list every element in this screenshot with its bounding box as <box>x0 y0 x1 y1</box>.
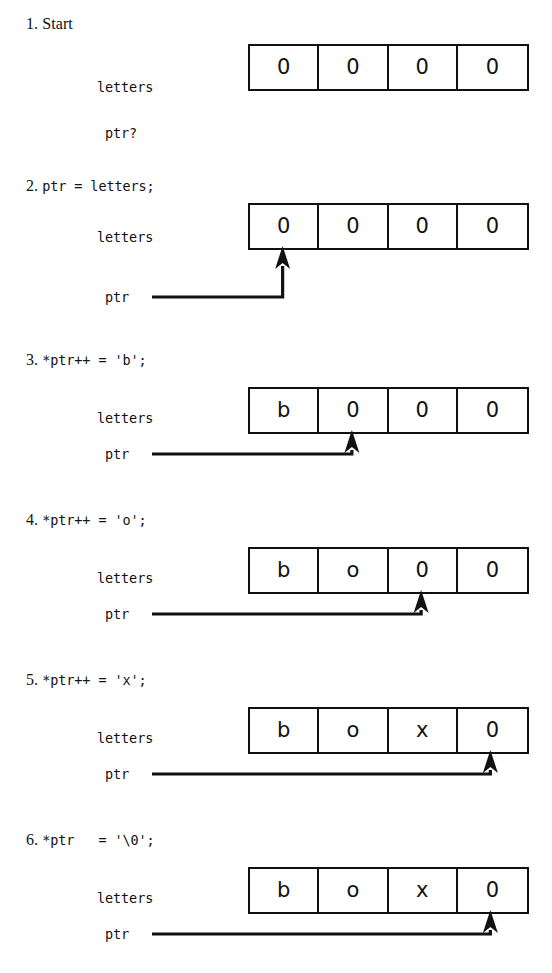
step-number: 6. <box>26 831 38 848</box>
array-label-letters: letters <box>97 79 153 95</box>
step-code-text: Start <box>42 15 73 32</box>
step-heading: 4. *ptr++ = 'o'; <box>26 510 147 530</box>
pointer-arrow <box>0 750 552 782</box>
arrow-head-icon <box>483 910 498 933</box>
step-number: 1. <box>26 15 38 32</box>
array-cells: box0 <box>248 707 529 754</box>
array-cell: 0 <box>389 549 458 592</box>
array-cell: x <box>389 709 458 752</box>
array-cell: 0 <box>319 46 388 89</box>
step-heading: 2. ptr = letters; <box>26 176 155 196</box>
arrow-head-icon <box>414 590 429 613</box>
array-cell: 0 <box>389 46 458 89</box>
pointer-arrow <box>0 430 552 462</box>
array-cell: 0 <box>458 389 527 432</box>
array-cell: 0 <box>389 205 458 248</box>
step-number: 2. <box>26 177 38 194</box>
array-cells: b000 <box>248 387 529 434</box>
step-code-text: *ptr++ = 'x'; <box>42 672 146 688</box>
arrow-head-icon <box>344 430 359 453</box>
array-cell: 0 <box>458 709 527 752</box>
array-cells: box0 <box>248 867 529 914</box>
array-label-letters: letters <box>97 730 153 746</box>
array-cell: 0 <box>458 46 527 89</box>
pointer-arrow <box>0 910 552 942</box>
step-code-text: *ptr++ = 'o'; <box>42 512 146 528</box>
array-cell: 0 <box>250 205 319 248</box>
array-cell: 0 <box>458 205 527 248</box>
array-cell: o <box>319 709 388 752</box>
array-cell: 0 <box>319 389 388 432</box>
array-cell: o <box>319 869 388 912</box>
step-number: 3. <box>26 351 38 368</box>
array-cell: 0 <box>458 549 527 592</box>
array-cell: b <box>250 869 319 912</box>
array-label-letters: letters <box>97 229 153 245</box>
pointer-arrow <box>0 246 552 305</box>
array-cell: o <box>319 549 388 592</box>
array-cell: 0 <box>389 389 458 432</box>
arrow-head-icon <box>483 750 498 773</box>
pointer-unknown-label: ptr? <box>105 125 137 141</box>
array-label-letters: letters <box>97 890 153 906</box>
array-cell: x <box>389 869 458 912</box>
arrow-head-icon <box>275 246 290 269</box>
step-code-text: *ptr++ = 'b'; <box>42 352 146 368</box>
array-cell: b <box>250 389 319 432</box>
array-cell: b <box>250 709 319 752</box>
array-cells: 0000 <box>248 203 529 250</box>
array-cells: 0000 <box>248 44 529 91</box>
array-cell: b <box>250 549 319 592</box>
step-heading: 5. *ptr++ = 'x'; <box>26 670 147 690</box>
pointer-diagram-figure: 1. Startletters0000ptr?2. ptr = letters;… <box>0 0 552 973</box>
array-cell: 0 <box>458 869 527 912</box>
pointer-arrow <box>0 590 552 622</box>
step-number: 5. <box>26 671 38 688</box>
step-code-text: *ptr = '\0'; <box>42 832 154 848</box>
step-heading: 6. *ptr = '\0'; <box>26 830 155 850</box>
step-heading: 1. Start <box>26 14 73 33</box>
array-label-letters: letters <box>97 570 153 586</box>
step-heading: 3. *ptr++ = 'b'; <box>26 350 147 370</box>
step-code-text: ptr = letters; <box>42 178 154 194</box>
array-cell: 0 <box>250 46 319 89</box>
array-cell: 0 <box>319 205 388 248</box>
array-label-letters: letters <box>97 410 153 426</box>
array-cells: bo00 <box>248 547 529 594</box>
step-number: 4. <box>26 511 38 528</box>
